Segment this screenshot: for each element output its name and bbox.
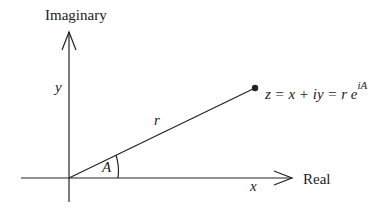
real-axis-label: Real [303, 172, 331, 187]
point-equation-base: z = x + iy = r e [265, 86, 357, 102]
radius-line [69, 88, 255, 178]
angle-arc [116, 155, 118, 178]
point-equation-exponent: iA [357, 79, 367, 91]
x-label: x [250, 179, 257, 194]
point-z [252, 85, 258, 91]
point-equation: z = x + iy = r eiA [265, 84, 367, 102]
angle-label: A [102, 160, 111, 175]
r-label: r [154, 113, 160, 128]
y-label: y [55, 80, 62, 95]
imaginary-axis-label: Imaginary [45, 8, 107, 23]
